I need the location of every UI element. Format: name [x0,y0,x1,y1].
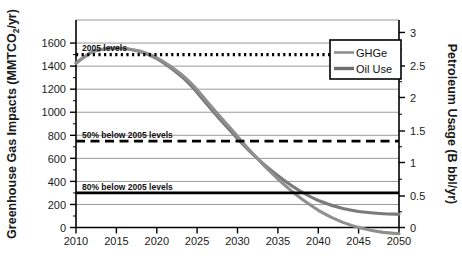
legend-label-ghge: GHGe [356,47,387,59]
xtick-label-2020: 2020 [145,235,169,247]
xtick-label-2015: 2015 [104,235,128,247]
y-axis-title: Greenhouse Gas Impacts (MMTCO2/yr) [5,9,21,239]
legend-label-oil-use: Oil Use [356,63,392,75]
xtick-label-2050: 2050 [387,235,411,247]
y2-axis-title: Petroleum Usage (B bbl/yr) [445,44,459,204]
y2tick-label-2: 2 [410,92,416,104]
x-axis-tick-labels: 2010 2015 2020 2025 2030 2035 2040 2045 … [64,235,411,247]
ytick-label-800: 800 [48,130,66,142]
ytick-label-1000: 1000 [42,106,66,118]
y2tick-label-1p5: 1.5 [410,125,425,137]
ytick-label-1400: 1400 [42,60,66,72]
y2tick-label-0p5: 0.5 [410,190,425,202]
ytick-label-1600: 1600 [42,37,66,49]
xtick-label-2045: 2045 [346,235,370,247]
xtick-label-2035: 2035 [266,235,290,247]
y2tick-label-0: 0 [410,222,416,234]
annotation-80-percent-below-2005-levels: 80% below 2005 levels [82,182,173,192]
ytick-label-200: 200 [48,199,66,211]
xtick-label-2025: 2025 [185,235,209,247]
annotation-50-percent-below-2005-levels: 50% below 2005 levels [82,130,173,140]
chart-container: 1600 1400 1200 1000 800 600 400 200 0 [0,0,462,261]
xtick-label-2010: 2010 [64,235,88,247]
y2tick-label-2p5: 2.5 [410,60,425,72]
y-axis-title-main: Greenhouse Gas Impacts (MMTCO [5,33,19,239]
legend[interactable]: GHGe Oil Use [330,40,401,79]
ytick-label-400: 400 [48,176,66,188]
y-axis-title-tail: /yr) [5,9,19,28]
ytick-label-600: 600 [48,153,66,165]
y2tick-label-1: 1 [410,157,416,169]
y2tick-label-3: 3 [410,27,416,39]
ytick-label-0: 0 [60,222,66,234]
xtick-label-2040: 2040 [306,235,330,247]
xtick-label-2030: 2030 [225,235,249,247]
annotation-2005-levels: 2005 levels [82,43,127,53]
ghg-oil-use-line-chart: 1600 1400 1200 1000 800 600 400 200 0 [0,0,462,261]
ytick-label-1200: 1200 [42,83,66,95]
